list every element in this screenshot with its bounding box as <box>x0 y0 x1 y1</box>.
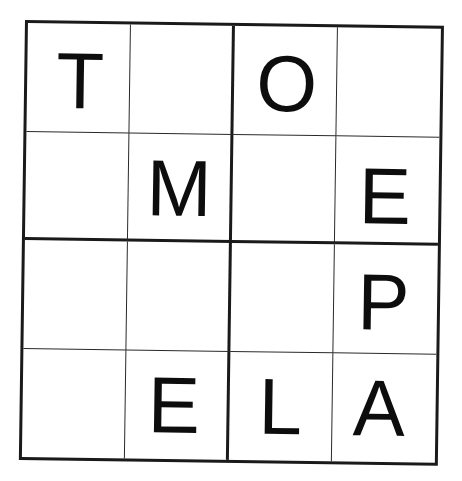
cell-letter: E <box>147 365 200 445</box>
cell-letter: O <box>256 43 318 123</box>
cell-r4-c4[interactable]: A <box>332 353 437 463</box>
cell-letter: L <box>258 366 302 446</box>
cell-letter: A <box>352 368 405 448</box>
cell-letter: P <box>357 262 410 342</box>
cell-r2-c4[interactable]: E <box>335 136 440 246</box>
cell-r4-c1[interactable] <box>22 349 127 459</box>
cell-r1-c3[interactable]: O <box>233 26 338 136</box>
puzzle-board: T O M E P E L A <box>19 20 444 466</box>
cell-r1-c1[interactable]: T <box>26 23 131 133</box>
cell-r4-c2[interactable]: E <box>125 350 230 460</box>
cell-r4-c3[interactable]: L <box>228 351 333 461</box>
cell-r2-c2[interactable]: M <box>128 133 233 243</box>
cell-r3-c3[interactable] <box>230 243 335 353</box>
puzzle-grid: T O M E P E L A <box>22 23 441 463</box>
cell-r1-c4[interactable] <box>336 27 441 137</box>
cell-r3-c4[interactable]: P <box>333 244 438 354</box>
cell-r3-c2[interactable] <box>127 241 232 351</box>
cell-r3-c1[interactable] <box>23 240 128 350</box>
cell-letter: M <box>146 148 212 228</box>
cell-r2-c1[interactable] <box>25 132 130 242</box>
cell-letter: T <box>56 41 105 121</box>
cell-r1-c2[interactable] <box>130 24 235 134</box>
cell-letter: E <box>358 155 411 235</box>
cell-r2-c3[interactable] <box>231 134 336 244</box>
